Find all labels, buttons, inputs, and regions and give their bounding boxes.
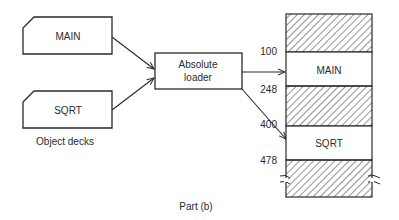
loader-label-line2: loader <box>184 72 212 84</box>
arrow-main-to-loader <box>112 37 154 69</box>
loader-label-line1: Absolute <box>179 59 218 71</box>
memory-column <box>280 14 380 197</box>
card-label-main: MAIN <box>56 31 81 42</box>
memory-region-hatched-bottom <box>286 160 372 197</box>
memory-region-hatched-middle <box>286 86 372 126</box>
address-100: 100 <box>260 46 277 57</box>
address-478: 478 <box>260 155 277 166</box>
arrow-loader-to-sqrt-region <box>242 89 286 139</box>
card-label-sqrt: SQRT <box>54 105 82 116</box>
memory-region-hatched-top <box>286 14 372 52</box>
object-decks-label: Object decks <box>36 136 94 147</box>
address-248: 248 <box>260 84 277 95</box>
memory-label-sqrt: SQRT <box>315 138 343 149</box>
arrow-sqrt-to-loader <box>112 78 154 110</box>
address-400: 400 <box>260 119 277 130</box>
figure-caption: Part (b) <box>179 201 212 212</box>
memory-label-main: MAIN <box>317 65 342 76</box>
